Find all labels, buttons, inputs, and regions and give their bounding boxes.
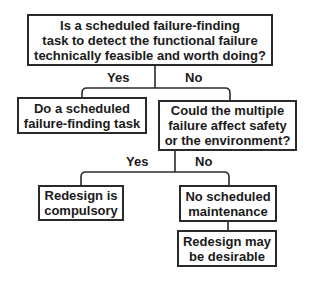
action-do-failure-finding-task: Do a scheduled failure-finding task <box>17 97 147 134</box>
branch-label-no: No <box>195 155 212 169</box>
question-text: Is a scheduled failure-finding task to d… <box>34 18 266 63</box>
outcome-text: No scheduled maintenance <box>185 189 270 219</box>
action-text: Do a scheduled failure-finding task <box>24 101 140 131</box>
question-affect-safety-environment: Could the multiple failure affect safety… <box>158 100 297 151</box>
outcome-no-scheduled-maintenance: No scheduled maintenance <box>179 185 277 222</box>
outcome-redesign-may-be-desirable: Redesign may be desirable <box>177 230 277 267</box>
outcome-redesign-compulsory: Redesign is compulsory <box>38 185 124 221</box>
question-failure-finding-feasible: Is a scheduled failure-finding task to d… <box>27 14 273 66</box>
outcome-text: Redesign may be desirable <box>183 234 271 264</box>
question-text: Could the multiple failure affect safety… <box>165 103 291 148</box>
q2-branch-bracket <box>81 172 229 185</box>
outcome-text: Redesign is compulsory <box>44 188 118 218</box>
branch-label-yes: Yes <box>107 71 129 85</box>
branch-label-yes: Yes <box>126 155 148 169</box>
branch-label-no: No <box>185 71 202 85</box>
